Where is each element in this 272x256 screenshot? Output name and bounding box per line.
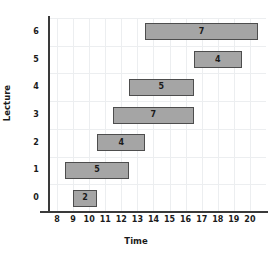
gridline-vertical: [57, 18, 58, 212]
gridline-horizontal: [49, 73, 266, 74]
bar-lecture-4[interactable]: 5: [129, 79, 193, 96]
y-tick-3: 3: [30, 110, 42, 119]
bar-lecture-5[interactable]: 4: [194, 51, 242, 68]
bar-lecture-1[interactable]: 5: [65, 162, 129, 179]
y-tick-2: 2: [30, 138, 42, 147]
bar-lecture-0[interactable]: 2: [73, 190, 97, 207]
bar-lecture-6[interactable]: 7: [145, 23, 258, 40]
x-tick-20: 20: [241, 215, 259, 224]
plot-area: 2547547: [49, 18, 266, 212]
gridline-horizontal: [49, 184, 266, 185]
y-tick-0: 0: [30, 193, 42, 202]
gridline-vertical: [218, 18, 219, 212]
bar-value-label: 4: [118, 139, 124, 147]
bar-lecture-2[interactable]: 4: [97, 134, 145, 151]
gridline-horizontal: [49, 46, 266, 47]
gridline-horizontal: [49, 129, 266, 130]
gridline-vertical: [234, 18, 235, 212]
y-tick-1: 1: [30, 165, 42, 174]
gridline-vertical: [202, 18, 203, 212]
y-axis-line: [48, 16, 50, 213]
bar-value-label: 2: [82, 194, 88, 202]
gridline-horizontal: [49, 18, 266, 19]
bar-value-label: 5: [159, 83, 165, 91]
bar-lecture-3[interactable]: 7: [113, 107, 193, 124]
bar-value-label: 5: [94, 166, 100, 174]
x-axis-line: [40, 211, 268, 213]
y-axis-title: Lecture: [2, 73, 12, 133]
y-tick-5: 5: [30, 55, 42, 64]
bar-value-label: 4: [215, 56, 221, 64]
y-tick-6: 6: [30, 27, 42, 36]
gridline-vertical: [250, 18, 251, 212]
gridline-vertical: [73, 18, 74, 212]
gantt-chart: 2547547 891011121314151617181920 0123456…: [0, 0, 272, 256]
bar-value-label: 7: [199, 28, 205, 36]
gridline-vertical: [89, 18, 90, 212]
gridline-horizontal: [49, 157, 266, 158]
bar-value-label: 7: [151, 111, 157, 119]
gridline-vertical: [105, 18, 106, 212]
x-axis-title: Time: [0, 236, 272, 246]
y-tick-4: 4: [30, 82, 42, 91]
gridline-horizontal: [49, 101, 266, 102]
